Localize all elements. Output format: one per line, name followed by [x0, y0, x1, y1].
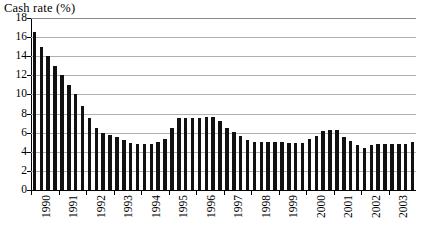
bar	[246, 140, 250, 190]
bar	[260, 142, 264, 190]
bar	[184, 118, 188, 190]
bar	[349, 141, 353, 190]
bar	[211, 117, 215, 190]
bar	[60, 75, 64, 190]
x-axis-labels: 1990199119921993199419951996199719981999…	[31, 195, 416, 233]
x-axis-tick-label: 1996	[206, 195, 218, 218]
cash-rate-bar-chart: Cash rate (%) 024681012141618 1990199119…	[0, 0, 427, 233]
x-axis-tick-label: 2001	[343, 195, 355, 218]
x-axis-tick-label: 1995	[178, 195, 190, 218]
bar	[81, 106, 85, 190]
bar	[315, 136, 319, 190]
bar	[266, 142, 270, 190]
x-axis-tick-label: 1997	[233, 195, 245, 218]
bar	[383, 144, 387, 190]
x-axis-tick-label: 1990	[41, 195, 53, 218]
bar	[328, 130, 332, 190]
bars-layer	[31, 18, 416, 190]
bar	[198, 118, 202, 190]
bar	[136, 144, 140, 190]
x-axis-tick-label: 2002	[371, 195, 383, 218]
bar	[397, 144, 401, 190]
x-axis-tick-label: 1994	[151, 195, 163, 218]
x-axis-tick-label: 1991	[68, 195, 80, 218]
bar	[108, 135, 112, 190]
bar	[33, 32, 37, 190]
bar	[287, 143, 291, 190]
bar	[177, 118, 181, 190]
bar	[67, 85, 71, 190]
x-axis-tick-label: 1998	[261, 195, 273, 218]
bar	[411, 142, 415, 190]
bar	[156, 142, 160, 190]
bar	[40, 47, 44, 190]
bar	[370, 145, 374, 190]
bar	[232, 132, 236, 190]
bar	[88, 118, 92, 190]
bar	[163, 139, 167, 190]
bar	[280, 142, 284, 190]
plot-area	[31, 18, 416, 190]
bar	[150, 144, 154, 190]
bar	[390, 144, 394, 190]
bar	[376, 144, 380, 190]
bar	[191, 118, 195, 190]
bar	[122, 140, 126, 190]
bar	[129, 143, 133, 190]
bar	[356, 145, 360, 190]
x-axis-tick-label: 1992	[96, 195, 108, 218]
bar	[101, 133, 105, 190]
bar	[335, 130, 339, 190]
bar	[53, 66, 57, 190]
bar	[239, 136, 243, 190]
bar	[218, 121, 222, 190]
bar	[115, 137, 119, 190]
x-axis-tick-label: 2000	[316, 195, 328, 218]
bar	[321, 131, 325, 190]
y-axis-tick-marks	[0, 18, 31, 190]
bar	[342, 137, 346, 191]
bar	[301, 143, 305, 190]
bar	[273, 142, 277, 190]
bar	[74, 94, 78, 190]
x-axis-tick-label: 1993	[123, 195, 135, 218]
bar	[225, 128, 229, 190]
x-axis-tick-label: 2003	[398, 195, 410, 218]
bar	[46, 56, 50, 190]
bar	[294, 143, 298, 190]
bar	[205, 117, 209, 190]
bar	[363, 148, 367, 190]
bar	[404, 144, 408, 190]
x-axis-tick-label: 1999	[288, 195, 300, 218]
bar	[253, 142, 257, 190]
bar	[170, 128, 174, 190]
bar	[143, 144, 147, 190]
bar	[95, 128, 99, 190]
bar	[308, 139, 312, 190]
